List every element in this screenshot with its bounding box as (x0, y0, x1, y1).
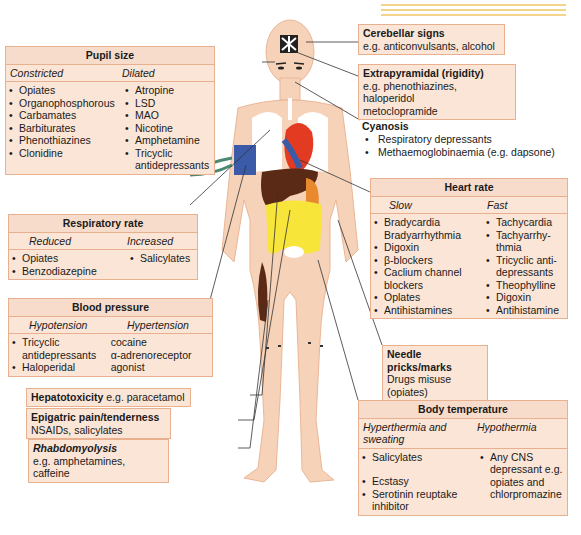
hypotension-label: Hypotension (9, 319, 127, 332)
rhabdomyolysis-title: Rhabdomyolysis (33, 442, 164, 455)
extrapyramidal-text: e.g. phenothiazines, haloperidol (363, 80, 511, 105)
constricted-label: Constricted (6, 67, 122, 80)
constricted-list: Opiates Organophosphorous Carbamates Bar… (6, 84, 122, 172)
hypotension-list: Tricyclic antidepressants Haloperidal (9, 336, 111, 374)
cyanosis-section: Cyanosis Respiratory depressants Methaem… (362, 120, 555, 159)
cerebellar-box: Cerebellar signs e.g. anticonvulsants, a… (358, 24, 505, 55)
increased-label: Increased (127, 235, 173, 248)
list-item: α-adrenoreceptor agonist (111, 349, 212, 374)
list-item: Theophylline (483, 279, 567, 292)
respiratory-rate-box: Respiratory rate Reduced Increased Opiat… (8, 214, 198, 280)
list-item: Phenothiazines (6, 134, 122, 147)
list-item: Tricyclic antidepressants (122, 147, 214, 172)
list-item: Haloperidal (9, 361, 111, 374)
trachea (288, 98, 292, 120)
heart-rate-box: Heart rate Slow Fast Bradycardia Bradyar… (370, 178, 568, 319)
list-item: Digoxin (483, 291, 567, 304)
epigastric-box: Epigatric pain/tenderness NSAIDs, salicy… (26, 408, 171, 439)
list-item: Antihistamines (371, 304, 483, 317)
list-item: Salicylates (127, 252, 190, 265)
cyanosis-title: Cyanosis (362, 120, 555, 133)
list-item: Organophosphorous (6, 97, 122, 110)
pupil-size-title: Pupil size (6, 47, 214, 65)
intestine-icon (266, 201, 322, 254)
list-item: Barbiturates (6, 122, 122, 135)
list-item: MAO (122, 109, 214, 122)
blood-pressure-box: Blood pressure Hypotension Hypertension … (8, 298, 213, 377)
increased-list: Salicylates (127, 252, 190, 277)
cerebellar-title: Cerebellar signs (363, 27, 500, 40)
cerebellar-text: e.g. anticonvulsants, alcohol (363, 40, 500, 53)
heart-rate-title: Heart rate (371, 179, 567, 197)
list-item: Tachycardia (483, 216, 567, 229)
list-item: Atropine (122, 84, 214, 97)
list-item: Any CNS depressant e.g. opiates and chlo… (477, 451, 567, 501)
needle-text: Drugs misuse (opiates) (387, 373, 483, 398)
bp-cuff-icon (234, 145, 256, 175)
hypothermia-list: Any CNS depressant e.g. opiates and chlo… (477, 451, 567, 513)
respiratory-rate-title: Respiratory rate (9, 215, 197, 233)
extrapyramidal-text-2: metoclopramide (363, 105, 511, 118)
fast-label: Fast (487, 199, 507, 212)
epigastric-title: Epigatric pain/tenderness (31, 411, 166, 424)
dilated-list: Atropine LSD MAO Nicotine Amphetamine Tr… (122, 84, 214, 172)
list-item: Salicylates (359, 451, 477, 464)
list-item: LSD (122, 97, 214, 110)
list-item: Tricyclic anti-depressants (483, 254, 567, 279)
list-item: Benzodiazepine (9, 265, 127, 278)
body-temperature-title: Body temperature (359, 401, 567, 419)
rhabdomyolysis-box: Rhabdomyolysis e.g. amphetamines, caffei… (28, 439, 169, 483)
list-item: Amphetamine (122, 134, 214, 147)
hepatotoxicity-box: Hepatotoxicity e.g. paracetamol (26, 388, 191, 407)
list-item: Bradycardia Bradyarrhythmia (371, 216, 483, 241)
list-item: Ecstasy (359, 475, 477, 488)
needle-title: Needle pricks/marks (387, 348, 483, 373)
extrapyramidal-box: Extrapyramidal (rigidity) e.g. phenothia… (358, 64, 516, 120)
epigastric-text: NSAIDs, salicylates (31, 424, 166, 437)
list-item: Carbamates (6, 109, 122, 122)
dilated-label: Dilated (122, 67, 155, 80)
cyanosis-list: Respiratory depressants Methaemoglobinae… (362, 133, 555, 159)
list-item: Antihistamine (483, 304, 567, 317)
rhabdomyolysis-text: e.g. amphetamines, caffeine (33, 455, 164, 480)
list-item: Methaemoglobinaemia (e.g. dapsone) (362, 146, 555, 159)
fast-list: Tachycardia Tachyarrhy-thmia Tricyclic a… (483, 216, 567, 316)
list-item: Digoxin (371, 241, 483, 254)
list-item: Opiates (6, 84, 122, 97)
hyperthermia-label: Hyperthermia and sweating (359, 421, 477, 446)
reduced-label: Reduced (9, 235, 127, 248)
list-item: Clonidine (6, 147, 122, 160)
body-temperature-box: Body temperature Hyperthermia and sweati… (358, 400, 568, 516)
reduced-list: Opiates Benzodiazepine (9, 252, 127, 277)
list-item: Serotinin reuptake inhibitor (359, 488, 477, 513)
pelvis (284, 246, 304, 258)
hypertension-list: cocaine α-adrenoreceptor agonist (111, 336, 212, 374)
hepatotoxicity-title: Hepatotoxicity (31, 391, 103, 403)
slow-list: Bradycardia Bradyarrhythmia Digoxin β-bl… (371, 216, 483, 316)
needle-box: Needle pricks/marks Drugs misuse (opiate… (382, 345, 488, 401)
slow-label: Slow (371, 199, 487, 212)
hypothermia-label: Hypothermia (477, 421, 537, 446)
list-item: Caclium channel blockers (371, 266, 483, 291)
list-item: Nicotine (122, 122, 214, 135)
hypertension-label: Hypertension (127, 319, 189, 332)
blood-pressure-title: Blood pressure (9, 299, 212, 317)
list-item: Opiates (9, 252, 127, 265)
list-item: Tricyclic antidepressants (9, 336, 111, 361)
hyperthermia-list: Salicylates Ecstasy Serotinin reuptake i… (359, 451, 477, 513)
list-item: Tachyarrhy-thmia (483, 229, 567, 254)
extrapyramidal-title: Extrapyramidal (rigidity) (363, 67, 511, 80)
list-item: cocaine (111, 336, 212, 349)
pupil-size-box: Pupil size Constricted Dilated Opiates O… (5, 46, 215, 175)
list-item: Respiratory depressants (362, 133, 555, 146)
list-item: β-blockers (371, 254, 483, 267)
list-item: Oplates (371, 291, 483, 304)
hepatotoxicity-text: e.g. paracetamol (106, 391, 184, 403)
